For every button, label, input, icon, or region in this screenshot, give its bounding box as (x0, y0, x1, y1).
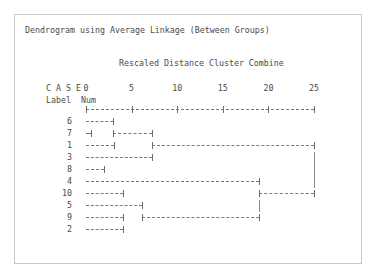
dendrogram-branch-7-1 (113, 133, 151, 134)
dendrogram-node-10-1-1 (314, 190, 315, 197)
dendrogram-node-6-0-1 (113, 118, 114, 125)
dendrogram-branch-10-0 (86, 193, 123, 194)
dendrogram-node-8-0-1 (104, 166, 105, 173)
dendrogram-node-4-0-1 (259, 178, 260, 185)
dendrogram-node-7-1-0 (113, 130, 114, 137)
dendrogram-branch-1-1 (152, 145, 314, 146)
dendrogram-node-3-0-1 (152, 154, 153, 161)
dendrogram-row-label-10: 10 (46, 188, 72, 198)
output-panel: Dendrogram using Average Linkage (Betwee… (14, 14, 362, 264)
dendrogram-node-9-1-1 (259, 214, 260, 221)
dendrogram-row-label-8: 8 (46, 164, 72, 174)
x-axis-line (86, 109, 314, 110)
x-axis-tick-0 (86, 106, 87, 113)
dendrogram-row-label-7: 7 (46, 128, 72, 138)
dendrogram-link-bar-5-0 (259, 200, 260, 212)
dendrogram-branch-5-0 (86, 205, 142, 206)
dendrogram-node-9-0-1 (123, 214, 124, 221)
dendrogram-node-7-0-1 (91, 130, 92, 137)
dendrogram-branch-9-0 (86, 217, 123, 218)
dendrogram-link-bar-8-0 (314, 164, 315, 176)
dendrogram-node-10-0-1 (123, 190, 124, 197)
dendrogram-node-1-0-1 (114, 142, 115, 149)
dendrogram-row-label-6: 6 (46, 116, 72, 126)
dendrogram-branch-2-0 (86, 229, 123, 230)
dendrogram-link-bar-4-0 (314, 176, 315, 188)
dendrogram-row-label-2: 2 (46, 224, 72, 234)
x-axis-tick-25 (314, 106, 315, 113)
dendrogram-node-2-0-1 (123, 226, 124, 233)
dendrogram-row-label-9: 9 (46, 212, 72, 222)
screenshot-root: Dendrogram using Average Linkage (Betwee… (0, 0, 378, 280)
dendrogram-link-bar-3-0 (314, 152, 315, 164)
dendrogram-row-label-4: 4 (46, 176, 72, 186)
x-axis-tick-5 (132, 106, 133, 113)
dendrogram-branch-3-0 (86, 157, 152, 158)
dendrogram-branch-6-0 (86, 121, 113, 122)
x-axis-tick-15 (223, 106, 224, 113)
x-axis-tick-10 (177, 106, 178, 113)
dendrogram-row-label-3: 3 (46, 152, 72, 162)
dendrogram-branch-9-1 (142, 217, 260, 218)
dendrogram-node-10-1-0 (259, 190, 260, 197)
dendrogram-branch-10-1 (259, 193, 314, 194)
dendrogram-node-7-1-1 (152, 130, 153, 137)
x-axis-tick-20 (268, 106, 269, 113)
dendrogram-node-1-1-1 (314, 142, 315, 149)
dendrogram-branch-1-0 (86, 145, 114, 146)
dendrogram-row-label-5: 5 (46, 200, 72, 210)
dendrogram-row-label-1: 1 (46, 140, 72, 150)
dendrogram-node-9-1-0 (142, 214, 143, 221)
dendrogram-branch-4-0 (86, 181, 259, 182)
dendrogram-plot: 67138410592 (15, 15, 363, 265)
dendrogram-node-5-0-1 (142, 202, 143, 209)
dendrogram-node-1-1-0 (152, 142, 153, 149)
dendrogram-branch-8-0 (86, 169, 104, 170)
